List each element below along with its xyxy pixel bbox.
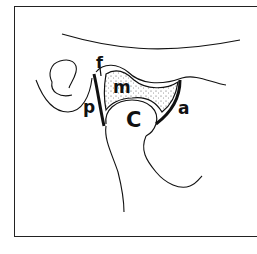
label-m: m	[113, 79, 131, 96]
sigmoid-notch-outline	[144, 136, 202, 187]
ear-canal-outline	[50, 60, 76, 96]
posterior-capsule	[94, 74, 104, 126]
label-a: a	[178, 100, 189, 117]
label-c: C	[126, 110, 141, 131]
skull-base-line	[62, 34, 240, 49]
label-f: f	[96, 55, 103, 71]
label-p: p	[83, 99, 95, 116]
ramus-posterior-outline	[106, 126, 124, 212]
